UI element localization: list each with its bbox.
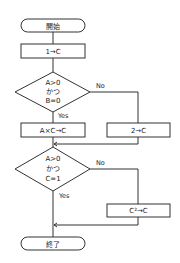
merge-connector <box>54 137 138 144</box>
decision1-line2: かつ <box>46 88 60 96</box>
decision2-yes-label: Yes <box>58 192 70 200</box>
decision2-line3: C=1 <box>45 175 60 183</box>
decision1-yes-label: Yes <box>57 112 69 120</box>
decision2-line2: かつ <box>46 165 60 173</box>
merge-connector <box>54 217 138 225</box>
no-process1-label: 2→C <box>131 127 146 135</box>
decision2-line1: A>0 <box>45 155 60 163</box>
init-process-label: 1→C <box>45 48 60 56</box>
connector <box>90 92 138 123</box>
connector <box>90 169 138 204</box>
decision1-line1: A>0 <box>45 79 60 87</box>
yes-process1-label: A×C→C <box>40 127 66 135</box>
end-label: 終了 <box>46 240 60 249</box>
decision1-line3: B=0 <box>45 97 60 105</box>
no-process2-label: C²→C <box>129 207 148 215</box>
decision1-no-label: No <box>96 82 105 90</box>
start-label: 開始 <box>46 22 60 31</box>
flowchart: 開始 1→C A>0 かつ B=0 No Yes A×C→C 2→C A>0 か… <box>0 0 180 263</box>
decision2-no-label: No <box>96 159 105 167</box>
